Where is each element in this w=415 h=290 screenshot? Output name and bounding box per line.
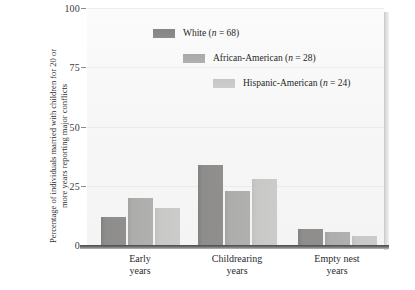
legend-label-african-american: African-American (n = 28) [213, 53, 316, 63]
legend-label-hispanic-american-name: Hispanic-American [243, 78, 317, 88]
legend-swatch-hispanic-american-icon [213, 79, 235, 88]
legend-label-white: White (n = 68) [183, 28, 239, 38]
legend-label-african-american-value: = 28) [293, 53, 316, 63]
legend-label-hispanic-american-value: = 24) [328, 78, 351, 88]
bar-chart: 100 75 50 25 0 Percentage of individuals… [0, 0, 415, 290]
legend-label-white-name: White [183, 28, 206, 38]
legend-label-african-american-name: African-American [213, 53, 283, 63]
legend-swatch-white-icon [153, 29, 175, 38]
legend-swatch-african-american-icon [183, 54, 205, 63]
legend-label-white-value: = 68) [217, 28, 240, 38]
legend: White (n = 68) African-American (n = 28)… [0, 0, 415, 290]
legend-label-hispanic-american: Hispanic-American (n = 24) [243, 78, 350, 88]
